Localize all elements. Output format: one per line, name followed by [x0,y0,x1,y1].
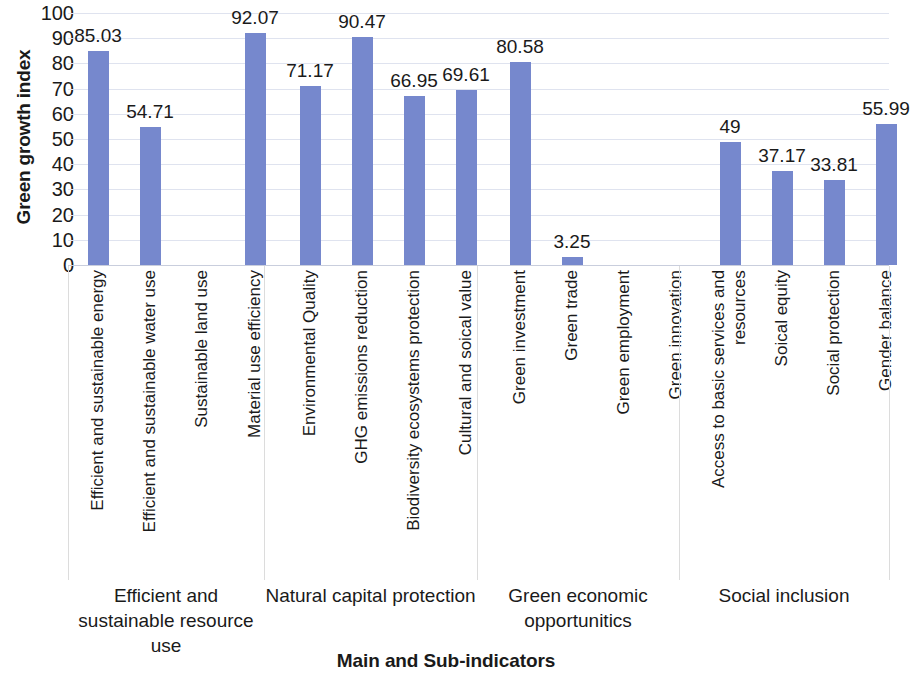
group-labels: Efficient and sustainable resource useNa… [0,583,892,643]
y-axis-tick-50: 50 [26,129,74,149]
bar [772,171,793,265]
gridline-70 [68,89,889,90]
bar-value-label: 69.61 [442,65,490,84]
bar-value-label: 66.95 [390,71,438,90]
x-axis-title: Main and Sub-indicators [0,650,892,672]
bar [352,37,373,265]
bar [720,142,741,265]
bar-value-label: 37.17 [758,146,806,165]
plot-area: 85.0354.7192.0771.1790.4766.9569.6180.58… [68,13,889,265]
x-axis-label: Cultural and soical value [456,270,475,455]
group-label: Green economic opportunitics [477,583,679,633]
bar [300,86,321,265]
x-axis-label: GHG emissions reduction [352,270,371,464]
gridline-30 [68,189,889,190]
x-axis-label: Material use efficiency [245,270,264,438]
x-axis-label: Green employment [614,270,633,415]
y-axis-tick-0: 0 [26,255,74,275]
gridline-90 [68,38,889,39]
y-axis-tick-30: 30 [26,179,74,199]
y-axis-tick-100: 100 [26,3,74,23]
bar [456,90,477,265]
y-axis-tick-40: 40 [26,154,74,174]
bar [88,51,109,265]
gridline-10 [68,240,889,241]
y-axis-tick-80: 80 [26,53,74,73]
y-axis-tick-20: 20 [26,205,74,225]
bar [876,124,897,265]
y-axis-tick-90: 90 [26,28,74,48]
group-separator [477,266,478,580]
x-axis-label: Sustainable land use [192,270,211,428]
y-axis-tick-labels: 1009080706050403020100 [26,0,74,290]
x-axis-label: Access to basic services and resources [708,270,752,560]
x-axis-category-labels: Efficient and sustainable energyEfficien… [68,270,889,570]
gridline-20 [68,215,889,216]
bar [140,127,161,265]
x-axis-label: Green trade [562,270,581,361]
group-separator [679,266,680,580]
x-axis-label: Biodiversity ecosystems protection [404,270,423,531]
bar-value-label: 54.71 [126,102,174,121]
group-separator [68,266,69,580]
group-label: Social inclusion [679,583,889,608]
bar-value-label: 90.47 [338,12,386,31]
y-axis-tick-70: 70 [26,79,74,99]
bar-value-label: 80.58 [496,37,544,56]
bar [824,180,845,265]
bar-value-label: 49 [719,117,740,136]
bar [510,62,531,265]
bar-value-label: 55.99 [862,99,910,118]
x-axis-label: Environmental Quality [300,270,319,436]
x-axis-label: Social protection [824,270,843,396]
bar-value-label: 71.17 [286,61,334,80]
y-axis-tick-60: 60 [26,104,74,124]
group-label: Natural capital protection [264,583,477,608]
bar-value-label: 92.07 [231,8,279,27]
bar [404,96,425,265]
bar-value-label: 85.03 [74,26,122,45]
x-axis-label: Green investment [510,270,529,404]
x-axis-label: Efficient and sustainable water use [140,270,159,532]
bar-value-label: 3.25 [554,232,591,251]
bar [562,257,583,265]
group-label: Efficient and sustainable resource use [68,583,264,658]
x-axis-baseline [68,265,889,266]
y-axis-tick-10: 10 [26,230,74,250]
x-axis-label: Gender balance [876,270,895,391]
x-axis-label: Soical equity [772,270,791,366]
bar-value-label: 33.81 [810,155,858,174]
x-axis-label: Green innovation [666,270,685,399]
group-separator [889,266,890,580]
gridline-60 [68,114,889,115]
group-separator [264,266,265,580]
gridline-100 [68,13,889,14]
x-axis-label: Efficient and sustainable energy [88,270,107,511]
bar [245,33,266,265]
gridline-50 [68,139,889,140]
